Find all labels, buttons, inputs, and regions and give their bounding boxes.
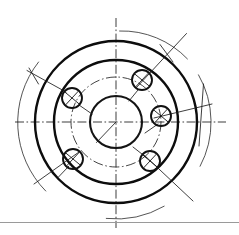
dimension-arc-top xyxy=(119,31,188,59)
hole-top xyxy=(132,70,152,90)
technical-drawing-canvas xyxy=(0,0,239,235)
leader-line-lower-left-hole xyxy=(34,152,79,184)
dimension-arc-bottom xyxy=(106,206,165,219)
hole-left xyxy=(62,88,82,108)
leader-line-top-hole-tail xyxy=(129,90,138,101)
leader-tick-right xyxy=(199,84,204,146)
dimension-arc-right xyxy=(198,75,211,167)
leader-line-bore-radius xyxy=(97,122,117,143)
dimension-arc-left xyxy=(18,62,46,192)
hole-left-crosshair-b xyxy=(66,91,79,105)
flange-drawing-svg xyxy=(0,0,239,235)
hole-right-crosshair-b xyxy=(155,109,168,123)
hole-lower-right xyxy=(140,151,160,171)
leader-line-left-hole-tail xyxy=(79,105,92,114)
bolt-hole-group xyxy=(62,70,171,171)
